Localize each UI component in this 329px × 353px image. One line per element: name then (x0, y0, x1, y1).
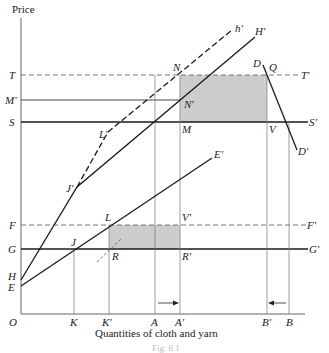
label-G-prime: G' (309, 243, 320, 255)
label-A: A (150, 316, 158, 328)
label-D: D (252, 57, 261, 69)
label-S-prime: S' (309, 116, 318, 128)
y-axis-title: Price (12, 3, 35, 15)
label-G: G (8, 243, 16, 255)
label-J: J (71, 236, 77, 248)
label-K-prime: K' (101, 316, 112, 328)
label-A-prime: A' (174, 316, 185, 328)
label-D-prime: D' (297, 145, 309, 157)
label-E: E (7, 281, 15, 293)
trade-diagram: Price Quantities of cloth and yarn Fig. … (0, 0, 329, 353)
label-L: L (104, 211, 111, 223)
label-F: F (8, 219, 16, 231)
label-J-prime: J' (66, 182, 74, 194)
label-L-prime: L' (98, 128, 108, 140)
label-H-prime: H' (254, 25, 266, 37)
label-B: B (286, 316, 293, 328)
label-M-prime: M' (4, 94, 17, 106)
label-T: T (9, 69, 16, 81)
arrowhead-right-icon (173, 301, 179, 306)
label-F-prime: F' (306, 219, 317, 231)
x-axis-title: Quantities of cloth and yarn (95, 327, 218, 339)
label-N: N (172, 61, 181, 73)
label-R: R (111, 250, 119, 262)
label-N-prime: N' (183, 98, 194, 110)
label-M: M (181, 123, 192, 135)
label-Q: Q (269, 61, 277, 73)
label-S: S (9, 116, 15, 128)
label-K: K (69, 316, 78, 328)
figure-caption: Fig. 6.1 (152, 343, 180, 353)
label-T-prime: T' (301, 69, 310, 81)
label-V-prime: V' (182, 211, 192, 223)
label-O: O (9, 316, 17, 328)
label-R-prime: R' (181, 250, 192, 262)
arrowhead-left-icon (268, 301, 274, 306)
shaded-area-lower (109, 225, 180, 249)
label-V: V (269, 123, 277, 135)
demand-curve-D (263, 65, 297, 150)
label-E-prime: E' (213, 148, 224, 160)
label-B-prime: B' (262, 316, 272, 328)
label-h-prime: h' (235, 22, 244, 34)
